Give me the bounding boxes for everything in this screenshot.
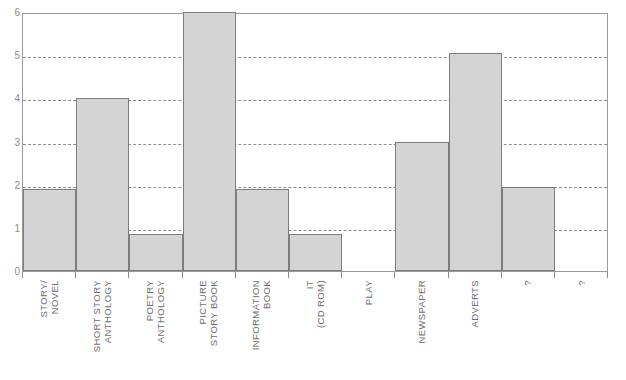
- x-label-line: (CD ROM): [315, 280, 326, 328]
- x-label-line: ANTHOLOGY: [155, 280, 166, 343]
- x-tick: [235, 272, 236, 278]
- x-tick: [341, 272, 342, 278]
- x-label-line: IT: [304, 280, 315, 289]
- x-label-line: ANTHOLOGY: [102, 280, 113, 352]
- bar: [23, 189, 76, 271]
- y-tick-label-5: 5: [2, 51, 20, 61]
- x-label-line: ?: [522, 280, 533, 286]
- x-label-line: SHORT STORY: [91, 280, 102, 352]
- x-label-line: NEWSPAPER: [416, 280, 427, 344]
- bar: [502, 187, 555, 271]
- gridline-5: [23, 57, 607, 58]
- y-tick-label-6: 6: [2, 8, 20, 18]
- bar: [289, 234, 342, 271]
- x-axis-label: IT(CD ROM): [304, 280, 326, 328]
- x-tick: [288, 272, 289, 278]
- x-tick: [554, 272, 555, 278]
- y-tick-label-4: 4: [2, 94, 20, 104]
- x-label-line: ADVERTS: [469, 280, 480, 328]
- y-tick-label-1: 1: [2, 224, 20, 234]
- y-tick-label-2: 2: [2, 181, 20, 191]
- x-label-line: STORY BOOK: [208, 280, 219, 346]
- x-axis-label: POETRYANTHOLOGY: [144, 280, 166, 343]
- x-label-line: PLAY: [363, 280, 374, 305]
- top-caption: [0, 0, 626, 5]
- y-axis-tick-labels: 0123456: [0, 0, 20, 380]
- x-tick: [75, 272, 76, 278]
- x-label-line: INFORMATION: [250, 280, 261, 350]
- x-tick: [22, 272, 23, 278]
- x-axis-label: INFORMATIONBOOK: [250, 280, 272, 350]
- x-label-line: STORY/: [38, 280, 49, 317]
- x-tick: [394, 272, 395, 278]
- x-tick: [128, 272, 129, 278]
- y-tick-label-0: 0: [2, 267, 20, 277]
- bar: [395, 142, 448, 272]
- x-axis-label: ?: [576, 280, 587, 286]
- bar: [236, 189, 289, 271]
- bar: [129, 234, 182, 271]
- y-tick-label-3: 3: [2, 138, 20, 148]
- x-axis-label: PLAY: [363, 280, 374, 305]
- x-axis-label: PICTURESTORY BOOK: [197, 280, 219, 346]
- plot-area: [22, 13, 608, 272]
- bar: [76, 98, 129, 271]
- x-axis-label: SHORT STORYANTHOLOGY: [91, 280, 113, 352]
- x-axis-label: STORY/NOVEL: [38, 280, 60, 317]
- x-label-line: NOVEL: [49, 280, 60, 317]
- x-label-line: POETRY: [144, 280, 155, 321]
- bar-chart: 0123456 STORY/NOVELSHORT STORYANTHOLOGYP…: [0, 0, 626, 380]
- x-label-line: PICTURE: [197, 280, 208, 325]
- x-tick: [448, 272, 449, 278]
- bar: [183, 12, 236, 271]
- x-tick: [501, 272, 502, 278]
- x-axis-label: ADVERTS: [469, 280, 480, 328]
- x-axis-label: ?: [522, 280, 533, 286]
- x-label-line: BOOK: [261, 280, 272, 350]
- x-tick: [607, 272, 608, 278]
- x-tick: [182, 272, 183, 278]
- x-axis-label: NEWSPAPER: [416, 280, 427, 344]
- bar: [449, 53, 502, 271]
- x-label-line: ?: [576, 280, 587, 286]
